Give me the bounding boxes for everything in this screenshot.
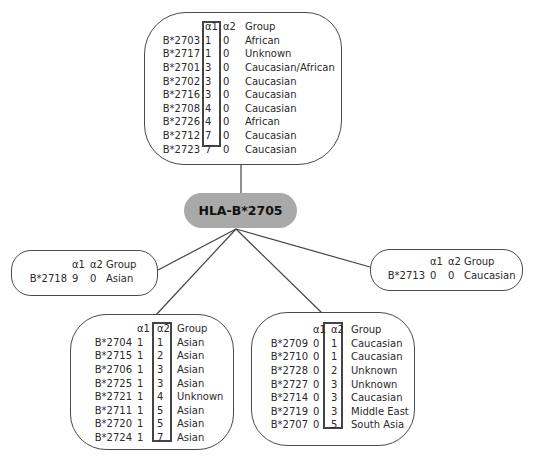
alpha1-value: 1 xyxy=(135,349,155,363)
alpha1-value: 7 xyxy=(203,142,221,156)
alpha1-value: 9 xyxy=(70,272,88,286)
alpha2-value: 2 xyxy=(329,364,351,378)
table-row: B*270901Caucasian xyxy=(268,337,409,351)
group-value: Asian xyxy=(106,272,136,286)
alpha2-value: 1 xyxy=(329,350,351,364)
alpha2-value: 3 xyxy=(329,391,351,405)
group-value: Unknown xyxy=(177,390,223,404)
allele-name: B*2714 xyxy=(268,391,311,405)
group-value: Caucasian xyxy=(464,269,516,283)
group-value: Asian xyxy=(177,417,223,431)
header-a1: α1 xyxy=(428,255,446,269)
alpha2-value: 0 xyxy=(446,269,464,283)
allele-name: B*2728 xyxy=(268,364,311,378)
alpha1-value: 1 xyxy=(203,47,221,61)
table-row: B*272370Caucasian xyxy=(160,142,335,156)
alpha2-value: 5 xyxy=(329,418,351,432)
alpha2-value: 3 xyxy=(329,377,351,391)
right-node-table: α1 α2 Group B*271300Caucasian xyxy=(385,255,516,282)
table-row: B*270705South Asia xyxy=(268,418,409,432)
alpha2-value: 2 xyxy=(155,349,177,363)
header-group: Group xyxy=(351,323,409,337)
alpha2-value: 1 xyxy=(329,337,351,351)
group-value: Middle East xyxy=(351,405,409,419)
alpha1-value: 1 xyxy=(135,336,155,350)
table-row: B*270411Asian xyxy=(92,336,223,350)
table-row: B*270840Caucasian xyxy=(160,102,335,116)
allele-name: B*2710 xyxy=(268,350,311,364)
group-value: African xyxy=(245,34,335,48)
table-row: B*271270Caucasian xyxy=(160,129,335,143)
allele-name: B*2701 xyxy=(160,61,203,75)
alpha1-value: 0 xyxy=(311,418,329,432)
table-row: B*272513Asian xyxy=(92,376,223,390)
alpha1-value: 0 xyxy=(428,269,446,283)
alpha1-value: 3 xyxy=(203,74,221,88)
alpha1-value: 0 xyxy=(311,405,329,419)
table-row: B*271890Asian xyxy=(27,272,136,286)
table-row: B*272417Asian xyxy=(92,431,223,445)
alpha2-value: 3 xyxy=(155,363,177,377)
header-group: Group xyxy=(177,322,223,336)
alpha2-value: 0 xyxy=(221,115,245,129)
header-group: Group xyxy=(245,20,335,34)
group-value: Asian xyxy=(177,336,223,350)
root-node-pill: HLA-B*2705 xyxy=(184,193,297,228)
top-node-table: α1 α2 Group B*270310AfricanB*271710Unkno… xyxy=(160,20,335,156)
alpha2-value: 0 xyxy=(221,34,245,48)
group-value: Asian xyxy=(177,404,223,418)
alpha2-value: 0 xyxy=(221,102,245,116)
allele-name: B*2721 xyxy=(92,390,135,404)
alpha1-value: 3 xyxy=(203,88,221,102)
header-a2: α2 xyxy=(88,258,106,272)
bottom-right-node-table: α1 α2 Group B*270901CaucasianB*271001Cau… xyxy=(268,323,409,432)
alpha1-value: 1 xyxy=(135,431,155,445)
group-value: Caucasian xyxy=(245,129,335,143)
header-a2: α2 xyxy=(446,255,464,269)
allele-name: B*2708 xyxy=(160,102,203,116)
allele-name: B*2715 xyxy=(92,349,135,363)
header-a1: α1 xyxy=(203,20,221,34)
left-node-table: α1 α2 Group B*271890Asian xyxy=(27,258,136,285)
allele-name: B*2725 xyxy=(92,376,135,390)
allele-name: B*2706 xyxy=(92,363,135,377)
header-a1: α1 xyxy=(135,322,155,336)
table-row: B*271403Caucasian xyxy=(268,391,409,405)
group-value: African xyxy=(245,115,335,129)
header-a1: α1 xyxy=(311,323,329,337)
group-value: South Asia xyxy=(351,418,409,432)
alpha2-value: 0 xyxy=(221,74,245,88)
alpha2-value: 5 xyxy=(155,417,177,431)
alpha2-value: 0 xyxy=(221,61,245,75)
alpha2-value: 0 xyxy=(221,88,245,102)
alpha2-value: 0 xyxy=(221,142,245,156)
table-row: B*272640African xyxy=(160,115,335,129)
group-value: Asian xyxy=(177,376,223,390)
table-row: B*270230Caucasian xyxy=(160,74,335,88)
group-value: Caucasian xyxy=(245,88,335,102)
allele-name: B*2724 xyxy=(92,431,135,445)
table-row: B*270130Caucasian/African xyxy=(160,61,335,75)
group-value: Caucasian xyxy=(245,142,335,156)
allele-name: B*2707 xyxy=(268,418,311,432)
group-value: Asian xyxy=(177,363,223,377)
table-row: B*271903Middle East xyxy=(268,405,409,419)
allele-name: B*2720 xyxy=(92,417,135,431)
table-row: B*271512Asian xyxy=(92,349,223,363)
alpha1-value: 0 xyxy=(311,377,329,391)
alpha2-value: 0 xyxy=(221,47,245,61)
allele-name: B*2711 xyxy=(92,404,135,418)
header-a2: α2 xyxy=(155,322,177,336)
header-a2: α2 xyxy=(221,20,245,34)
table-row: B*271300Caucasian xyxy=(385,269,516,283)
alpha1-value: 3 xyxy=(203,61,221,75)
table-row: B*270310African xyxy=(160,34,335,48)
alpha2-value: 0 xyxy=(88,272,106,286)
alpha1-value: 7 xyxy=(203,129,221,143)
alpha1-value: 0 xyxy=(311,350,329,364)
alpha1-value: 1 xyxy=(135,417,155,431)
group-value: Asian xyxy=(177,431,223,445)
alpha1-value: 0 xyxy=(311,391,329,405)
group-value: Caucasian/African xyxy=(245,61,335,75)
table-row: B*270613Asian xyxy=(92,363,223,377)
